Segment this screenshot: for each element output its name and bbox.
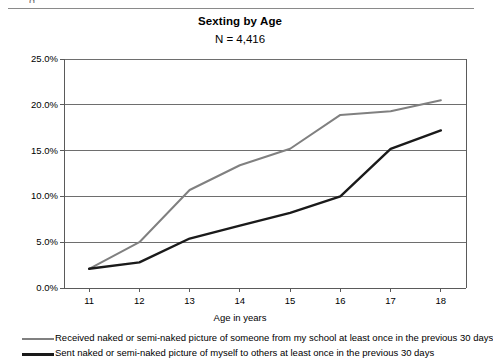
x-axis-tick-label: 16 [325,296,355,306]
x-axis-tick-label: 13 [175,296,205,306]
legend-label-received: Received naked or semi-naked picture of … [54,332,493,344]
legend-swatch-received [22,332,54,344]
x-axis-tick-label: 12 [124,296,154,306]
x-axis-tick-label: 14 [225,296,255,306]
y-axis-tick-label: 20.0% [12,100,58,110]
legend-swatch-sent [22,347,54,359]
y-axis-tick-label: 25.0% [12,54,58,64]
legend-item-received: Received naked or semi-naked picture of … [22,330,480,345]
y-axis-tick-label: 5.0% [12,237,58,247]
y-axis-tick-label: 10.0% [12,191,58,201]
series-line-sent [89,130,441,268]
y-axis-tick-label: 15.0% [12,146,58,156]
x-axis-title: Age in years [0,312,480,323]
axes-group [64,59,466,288]
y-axis-tick-label: 0.0% [12,283,58,293]
legend-item-sent: Sent naked or semi-naked picture of myse… [22,345,480,360]
legend-label-sent: Sent naked or semi-naked picture of myse… [54,347,434,359]
x-axis-tick-label: 11 [74,296,104,306]
axis-ticks-group [60,59,441,292]
x-axis-tick-label: 18 [426,296,456,306]
data-series-group [89,100,441,269]
x-axis-tick-label: 15 [275,296,305,306]
x-axis-tick-label: 17 [376,296,406,306]
gridlines-group [64,59,466,288]
chart-legend: Received naked or semi-naked picture of … [22,330,480,360]
series-line-received [89,100,441,269]
